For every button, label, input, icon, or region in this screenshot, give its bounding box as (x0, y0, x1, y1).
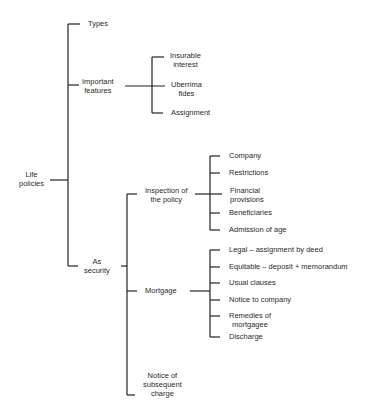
node-insurable-interest: Insurable interest (170, 51, 201, 69)
label: fides (171, 89, 202, 98)
node-restrictions: Restrictions (229, 168, 268, 177)
node-financial-provisions: Financial provisions (230, 186, 264, 204)
label: interest (170, 60, 201, 69)
label: subsequent (143, 380, 182, 389)
node-mortgage: Mortgage (145, 286, 177, 295)
label: policies (19, 179, 44, 188)
label: mortgagee (229, 320, 271, 329)
label: Notice of (143, 371, 182, 380)
node-equitable-deposit: Equitable – deposit + memorandum (229, 262, 348, 271)
node-as-security: As security (84, 257, 110, 275)
label: Uberrima (171, 80, 202, 89)
node-company: Company (229, 151, 261, 160)
node-usual-clauses: Usual clauses (229, 278, 276, 287)
label: As (84, 257, 110, 266)
node-inspection-of-policy: Inspection of the policy (145, 186, 188, 204)
node-life-policies: Life policies (19, 170, 44, 188)
node-beneficiaries: Beneficiaries (229, 208, 272, 217)
label: the policy (145, 195, 188, 204)
node-important-features: Important features (82, 77, 114, 95)
label: security (84, 266, 110, 275)
node-legal-assignment: Legal – assignment by deed (229, 245, 323, 254)
node-notice-to-company: Notice to company (229, 295, 291, 304)
node-remedies-of-mortgagee: Remedies of mortgagee (229, 311, 271, 329)
label: charge (143, 389, 182, 398)
label: Financial (230, 186, 264, 195)
label: Inspection of (145, 186, 188, 195)
node-types: Types (88, 19, 108, 28)
node-uberrima-fides: Uberrima fides (171, 80, 202, 98)
node-discharge: Discharge (229, 332, 263, 341)
label: Remedies of (229, 311, 271, 320)
node-admission-of-age: Admission of age (229, 225, 287, 234)
node-assignment: Assignment (171, 108, 210, 117)
label: features (82, 86, 114, 95)
label: Life (19, 170, 44, 179)
label: Important (82, 77, 114, 86)
node-notice-subsequent-charge: Notice of subsequent charge (143, 371, 182, 398)
label: Insurable (170, 51, 201, 60)
label: provisions (230, 195, 264, 204)
